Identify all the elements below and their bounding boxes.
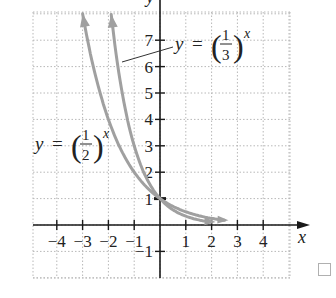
eq-third-equals: = [192, 33, 203, 54]
y-axis-label: y [144, 0, 154, 7]
arrowhead-right-icon [217, 216, 228, 224]
x-tick-label: 3 [233, 232, 242, 251]
x-tick-label: 1 [182, 232, 191, 251]
equation-third: y = ( 1 3 ) x [122, 26, 251, 64]
y-tick-label: 4 [145, 110, 154, 129]
y-tick-label: 3 [145, 137, 154, 156]
x-tick-label: 4 [259, 232, 268, 251]
eq-half-den: 2 [82, 147, 90, 163]
y-tick-label: 7 [145, 31, 154, 50]
x-tick-label: 2 [207, 232, 216, 251]
x-tick-label: −4 [48, 232, 67, 251]
x-tick-label: −2 [99, 232, 117, 251]
eq-third-den: 3 [222, 47, 230, 63]
eq-third-lparen: ( [211, 28, 222, 64]
eq-half-lparen: ( [71, 128, 82, 164]
eq-third-num: 1 [222, 27, 230, 43]
x-tick-label: −3 [74, 232, 92, 251]
eq-third-rparen: ) [233, 28, 244, 64]
curves [80, 14, 228, 226]
equation-half: y = ( 1 2 ) x [33, 126, 110, 164]
eq-third-lhs: y [173, 33, 184, 54]
eq-half-num: 1 [82, 127, 90, 143]
eq-third-exp: x [243, 26, 251, 41]
eq-half-lhs: y [33, 133, 44, 154]
y-tick-label: −1 [135, 242, 153, 261]
y-tick-label: 6 [145, 58, 154, 77]
eq-half-exp: x [102, 126, 110, 141]
checkbox[interactable] [318, 263, 331, 276]
y-tick-label: 5 [145, 84, 154, 103]
x-axis-label: x [297, 227, 306, 247]
exponential-graph: −4−3−2−11234−11234567 x y y = ( 1 3 ) x … [0, 0, 336, 298]
eq-half-equals: = [52, 133, 63, 154]
